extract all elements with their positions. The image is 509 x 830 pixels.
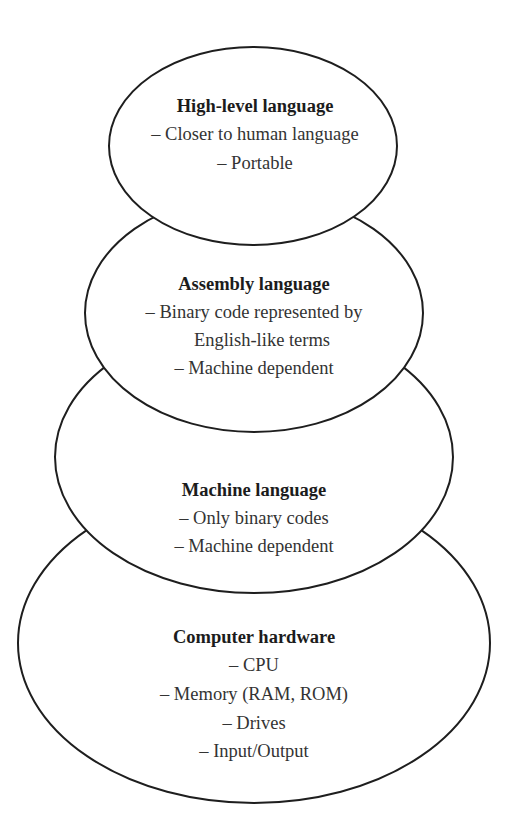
ellipse-high-level-language — [109, 47, 397, 245]
layer-title: High-level language — [177, 96, 334, 116]
layer-line: – Drives — [221, 713, 285, 733]
layer-high-level-language: High-level language – Closer to human la… — [109, 47, 397, 245]
layer-line: – Portable — [216, 153, 293, 173]
layer-title: Computer hardware — [173, 627, 335, 647]
layer-line: – Binary code represented by — [145, 302, 364, 322]
layer-line: – CPU — [228, 655, 279, 675]
layer-line: English-like terms — [194, 330, 330, 350]
layer-line: – Machine dependent — [173, 536, 334, 556]
layer-line: – Only binary codes — [178, 508, 329, 528]
layer-line: – Closer to human language — [150, 124, 359, 144]
layer-title: Machine language — [182, 480, 326, 500]
language-hierarchy-diagram: Computer hardware – CPU – Memory (RAM, R… — [0, 0, 509, 830]
layer-title: Assembly language — [178, 274, 330, 294]
layer-line: – Machine dependent — [173, 358, 334, 378]
layer-line: – Input/Output — [198, 741, 309, 761]
layer-line: – Memory (RAM, ROM) — [159, 684, 348, 705]
